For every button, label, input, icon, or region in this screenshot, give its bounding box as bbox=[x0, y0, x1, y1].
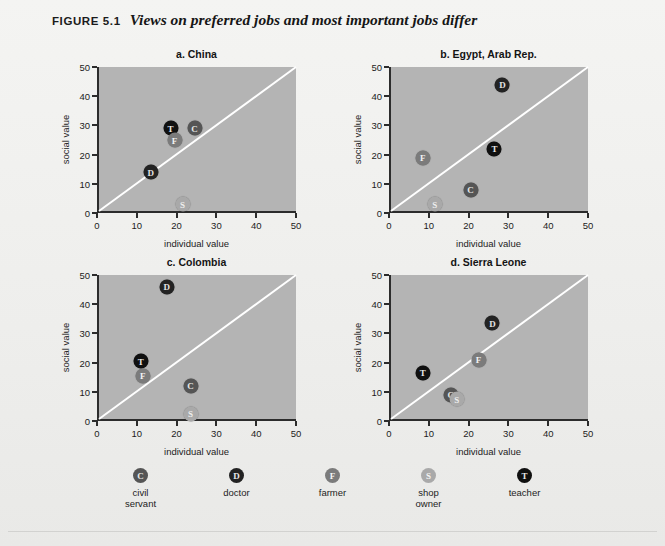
data-point-b-farmer: F bbox=[415, 150, 430, 165]
panel-title-a: a. China bbox=[97, 48, 296, 60]
xtick-c-30: 30 bbox=[204, 428, 228, 439]
ytick-a-0: 0 bbox=[70, 208, 90, 219]
panel-title-b: b. Egypt, Arab Rep. bbox=[389, 48, 588, 60]
xtick-c-50: 50 bbox=[284, 428, 308, 439]
ytick-c-40: 40 bbox=[70, 299, 90, 310]
figure-title-text: Views on preferred jobs and most importa… bbox=[130, 11, 478, 28]
ytick-mark-c-10 bbox=[92, 391, 97, 393]
ytick-a-30: 30 bbox=[70, 120, 90, 131]
legend-marker-F: F bbox=[325, 468, 340, 483]
legend-label-F: farmer bbox=[319, 487, 346, 498]
xtick-mark-b-10 bbox=[428, 213, 430, 218]
x-axis-label-c: individual value bbox=[97, 446, 296, 457]
plot-area-d: DFTCS bbox=[389, 275, 588, 421]
ytick-c-30: 30 bbox=[70, 328, 90, 339]
data-point-c-farmer: F bbox=[135, 368, 150, 383]
ytick-mark-b-20 bbox=[384, 154, 389, 156]
xtick-mark-d-50 bbox=[587, 421, 589, 426]
y-axis-label-b: social value bbox=[352, 67, 363, 213]
chart-panel-a: a. ChinaTCFDS0102030405001020304050socia… bbox=[52, 48, 308, 257]
xtick-d-0: 0 bbox=[377, 428, 401, 439]
ytick-d-50: 50 bbox=[362, 270, 382, 281]
source-note bbox=[10, 537, 655, 545]
chart-panel-d: d. Sierra LeoneDFTCS01020304050010203040… bbox=[344, 256, 600, 465]
ytick-mark-a-20 bbox=[92, 154, 97, 156]
xtick-mark-c-30 bbox=[215, 421, 217, 426]
legend-label-T: teacher bbox=[509, 487, 541, 498]
ytick-a-50: 50 bbox=[70, 62, 90, 73]
xtick-d-10: 10 bbox=[417, 428, 441, 439]
ytick-mark-d-30 bbox=[384, 332, 389, 334]
ytick-d-20: 20 bbox=[362, 357, 382, 368]
ytick-mark-a-30 bbox=[92, 124, 97, 126]
xtick-b-40: 40 bbox=[536, 220, 560, 231]
data-point-d-doctor: D bbox=[485, 316, 500, 331]
ytick-b-40: 40 bbox=[362, 91, 382, 102]
xtick-mark-c-50 bbox=[295, 421, 297, 426]
panel-title-c: c. Colombia bbox=[97, 256, 296, 268]
legend-item-doctor: Ddoctor bbox=[211, 468, 263, 498]
xtick-mark-a-50 bbox=[295, 213, 297, 218]
figure-container: FIGURE 5.1Views on preferred jobs and mo… bbox=[0, 0, 665, 546]
legend-item-teacher: Tteacher bbox=[499, 468, 551, 498]
ytick-mark-c-20 bbox=[92, 362, 97, 364]
xtick-mark-d-20 bbox=[468, 421, 470, 426]
ytick-mark-d-10 bbox=[384, 391, 389, 393]
y-axis-label-c: social value bbox=[60, 275, 71, 421]
ytick-mark-c-50 bbox=[92, 274, 97, 276]
ytick-mark-b-40 bbox=[384, 95, 389, 97]
xtick-b-0: 0 bbox=[377, 220, 401, 231]
xtick-c-10: 10 bbox=[125, 428, 149, 439]
data-point-c-shop-owner: S bbox=[183, 406, 198, 421]
xtick-mark-a-20 bbox=[176, 213, 178, 218]
xtick-mark-a-40 bbox=[255, 213, 257, 218]
figure-title: FIGURE 5.1Views on preferred jobs and mo… bbox=[52, 11, 477, 29]
ytick-b-50: 50 bbox=[362, 62, 382, 73]
xtick-a-20: 20 bbox=[165, 220, 189, 231]
xtick-mark-d-40 bbox=[547, 421, 549, 426]
data-point-a-civil-servant: C bbox=[187, 121, 202, 136]
xtick-a-30: 30 bbox=[204, 220, 228, 231]
legend-label-D: doctor bbox=[223, 487, 249, 498]
ytick-mark-a-50 bbox=[92, 66, 97, 68]
x-axis-label-b: individual value bbox=[389, 238, 588, 249]
legend-marker-C: C bbox=[133, 468, 148, 483]
ytick-c-20: 20 bbox=[70, 357, 90, 368]
xtick-d-20: 20 bbox=[457, 428, 481, 439]
xtick-mark-b-0 bbox=[388, 213, 390, 218]
x-axis-label-a: individual value bbox=[97, 238, 296, 249]
figure-number: FIGURE 5.1 bbox=[52, 15, 121, 27]
xtick-c-20: 20 bbox=[165, 428, 189, 439]
ytick-b-0: 0 bbox=[362, 208, 382, 219]
data-point-c-doctor: D bbox=[159, 279, 174, 294]
data-point-b-teacher: T bbox=[487, 141, 502, 156]
ytick-a-10: 10 bbox=[70, 178, 90, 189]
xtick-mark-a-30 bbox=[215, 213, 217, 218]
ytick-d-10: 10 bbox=[362, 386, 382, 397]
ytick-a-20: 20 bbox=[70, 149, 90, 160]
xtick-a-40: 40 bbox=[244, 220, 268, 231]
data-point-a-shop-owner: S bbox=[175, 197, 190, 212]
xtick-c-40: 40 bbox=[244, 428, 268, 439]
xtick-a-0: 0 bbox=[85, 220, 109, 231]
legend-label-S: shop bbox=[418, 487, 439, 498]
legend-marker-T: T bbox=[517, 468, 532, 483]
ytick-mark-b-10 bbox=[384, 183, 389, 185]
divider-rule bbox=[8, 531, 657, 532]
ytick-b-10: 10 bbox=[362, 178, 382, 189]
ytick-mark-c-40 bbox=[92, 303, 97, 305]
legend-item-civil-servant: Ccivilservant bbox=[115, 468, 167, 509]
xtick-mark-d-30 bbox=[507, 421, 509, 426]
ytick-d-30: 30 bbox=[362, 328, 382, 339]
panel-title-d: d. Sierra Leone bbox=[389, 256, 588, 268]
chart-panel-c: c. ColombiaDTFCS0102030405001020304050so… bbox=[52, 256, 308, 465]
ytick-c-0: 0 bbox=[70, 416, 90, 427]
xtick-a-50: 50 bbox=[284, 220, 308, 231]
y-axis-label-d: social value bbox=[352, 275, 363, 421]
data-point-d-teacher: T bbox=[415, 365, 430, 380]
legend-marker-S: S bbox=[421, 468, 436, 483]
chart-panel-b: b. Egypt, Arab Rep.DTFCS0102030405001020… bbox=[344, 48, 600, 257]
legend-label-C: civil bbox=[133, 487, 149, 498]
ytick-c-10: 10 bbox=[70, 386, 90, 397]
data-point-b-shop-owner: S bbox=[427, 197, 442, 212]
